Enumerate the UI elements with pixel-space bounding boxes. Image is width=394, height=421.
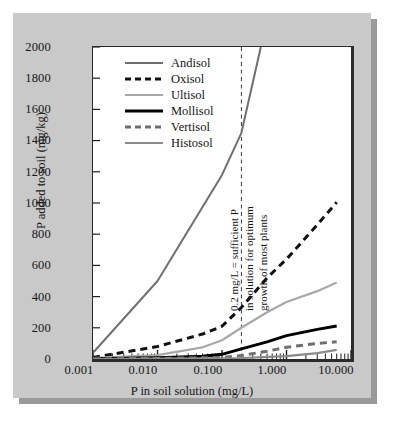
- legend-swatch-icon: [125, 58, 163, 68]
- x-tick-label: 0.010: [108, 363, 178, 378]
- legend-item-mollisol[interactable]: Mollisol: [125, 103, 245, 119]
- y-tick-label: 400: [0, 290, 51, 305]
- legend-label: Mollisol: [171, 104, 213, 118]
- chart-panel: 2000 1800 1600 1400 1200 1000 800 600 40…: [13, 13, 371, 398]
- legend-label: Ultisol: [171, 88, 205, 102]
- legend-item-histosol[interactable]: Histosol: [125, 135, 245, 151]
- x-tick-label: 0.100: [173, 363, 243, 378]
- x-tick-label: 10.000: [301, 363, 371, 378]
- legend-item-andisol[interactable]: Andisol: [125, 55, 245, 71]
- y-tick-label: 2000: [0, 40, 51, 55]
- legend-label: Oxisol: [171, 72, 204, 86]
- legend-item-oxisol[interactable]: Oxisol: [125, 71, 245, 87]
- legend-item-ultisol[interactable]: Ultisol: [125, 87, 245, 103]
- figure-container: 2000 1800 1600 1400 1200 1000 800 600 40…: [0, 0, 394, 421]
- y-axis-title: P added to soil (mg/kg): [34, 81, 49, 261]
- legend-label: Andisol: [171, 56, 211, 70]
- legend-label: Histosol: [171, 136, 213, 150]
- legend-item-vertisol[interactable]: Vertisol: [125, 119, 245, 135]
- x-tick-label: 1.000: [237, 363, 307, 378]
- y-tick-label: 200: [0, 321, 51, 336]
- x-axis-title: P in soil solution (mg/L): [13, 384, 371, 399]
- chart-legend: AndisolOxisolUltisolMollisolVertisolHist…: [125, 55, 245, 151]
- y-major-ticks: [93, 47, 100, 359]
- legend-swatch-icon: [125, 106, 163, 116]
- legend-swatch-icon: [125, 90, 163, 100]
- legend-swatch-icon: [125, 122, 163, 132]
- legend-swatch-icon: [125, 74, 163, 84]
- x-tick-label: 0.001: [44, 363, 114, 378]
- legend-swatch-icon: [125, 138, 163, 148]
- legend-label: Vertisol: [171, 120, 210, 134]
